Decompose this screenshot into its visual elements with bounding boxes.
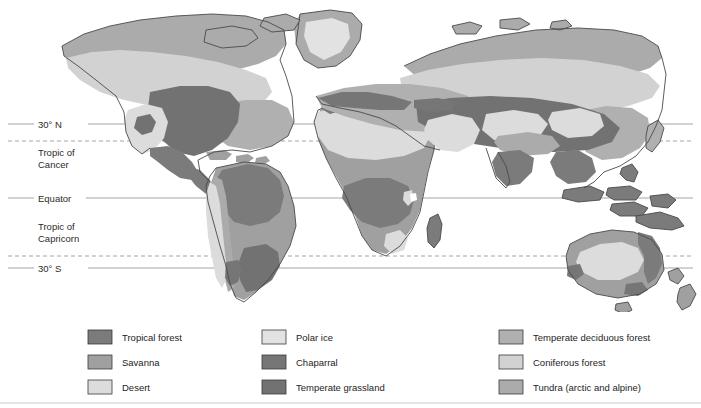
legend-swatch-chaparral [262,355,286,369]
latitude-label-tropic-of-cancer-line2: Cancer [38,159,69,170]
legend-swatch-temperate-deciduous-forest [499,330,523,344]
legend-swatch-temperate-grassland [262,380,286,394]
biome-map-figure: 30° N Tropic of Cancer Equator Tropic of… [0,0,701,408]
legend-swatch-coniferous-forest [499,355,523,369]
legend-label-tundra: Tundra (arctic and alpine) [533,382,641,393]
legend-label-savanna: Savanna [122,357,160,368]
legend-label-desert: Desert [122,382,150,393]
legend-swatch-desert [88,380,112,394]
legend-item-temperate-grassland: Temperate grassland [262,380,385,394]
legend-item-savanna: Savanna [88,355,160,369]
legend-item-tropical-forest: Tropical forest [88,330,182,344]
legend-label-temperate-grassland: Temperate grassland [296,382,385,393]
legend-label-temperate-deciduous-forest: Temperate deciduous forest [533,332,651,343]
legend-swatch-savanna [88,355,112,369]
legend-label-tropical-forest: Tropical forest [122,332,182,343]
legend-label-polar-ice: Polar ice [296,332,333,343]
legend-swatch-tundra [499,380,523,394]
legend-item-temperate-deciduous-forest: Temperate deciduous forest [499,330,651,344]
legend-label-chaparral: Chaparral [296,357,338,368]
latitude-label-equator: Equator [38,193,71,204]
latitude-label-tropic-of-cancer-line1: Tropic of [38,147,75,158]
legend-swatch-polar-ice [262,330,286,344]
latitude-label-tropic-of-capricorn-line1: Tropic of [38,221,75,232]
legend-swatch-tropical-forest [88,330,112,344]
world-biome-map: 30° N Tropic of Cancer Equator Tropic of… [0,0,701,408]
legend-item-polar-ice: Polar ice [262,330,333,344]
legend-label-coniferous-forest: Coniferous forest [533,357,606,368]
legend-item-coniferous-forest: Coniferous forest [499,355,606,369]
legend-item-chaparral: Chaparral [262,355,338,369]
latitude-label-tropic-of-capricorn-line2: Capricorn [38,233,79,244]
latitude-label-30n: 30° N [38,119,62,130]
latitude-label-30s: 30° S [38,263,61,274]
legend-item-tundra: Tundra (arctic and alpine) [499,380,641,394]
